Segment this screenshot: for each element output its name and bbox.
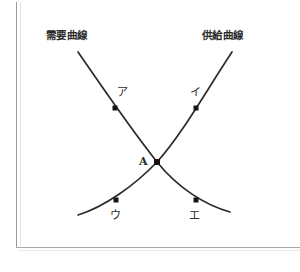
point-marker-e-kana (194, 198, 199, 203)
point-label-e-kana: エ (189, 210, 200, 221)
demand-curve-label: 需要曲線 (46, 30, 88, 41)
point-marker-a-kana (113, 106, 118, 111)
supply-curve-label: 供給曲線 (202, 30, 244, 41)
point-marker-i-kana (194, 106, 199, 111)
point-label-a-kana: ア (117, 87, 128, 98)
demand-curve-path (78, 52, 230, 212)
point-label-u-kana: ウ (110, 210, 121, 221)
supply-demand-diagram: 需要曲線 供給曲線 A ア イ ウ エ (0, 0, 300, 272)
curves-plot (0, 0, 300, 272)
supply-curve-path (78, 52, 232, 215)
point-label-i-kana: イ (190, 87, 201, 98)
point-marker-equilibrium (154, 159, 160, 165)
point-marker-u-kana (114, 198, 119, 203)
equilibrium-point-label: A (139, 156, 148, 167)
